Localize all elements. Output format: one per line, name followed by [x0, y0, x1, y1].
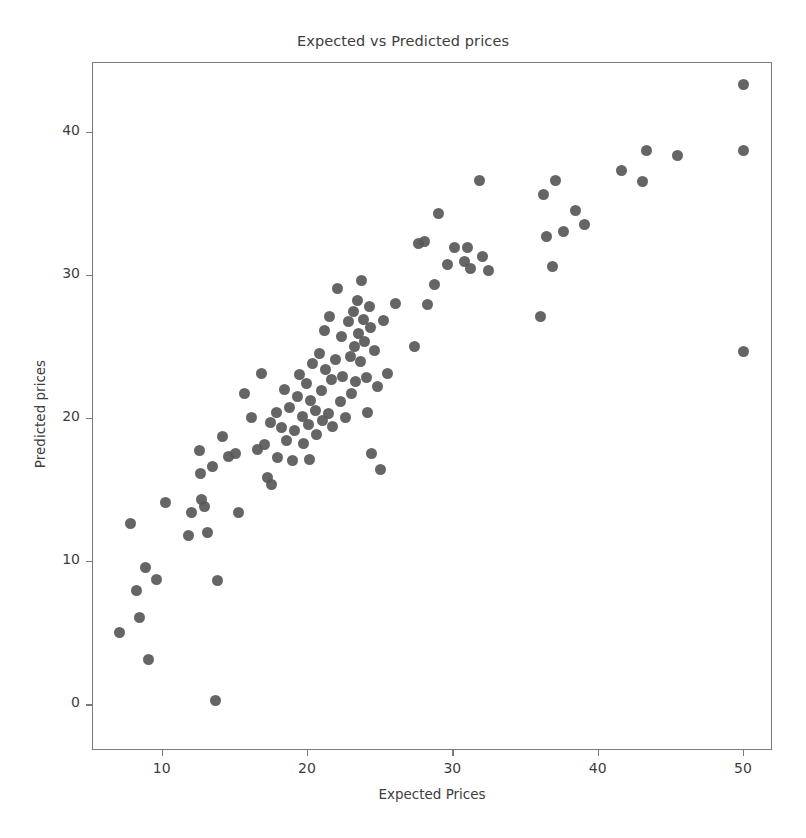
- scatter-point: [272, 452, 283, 463]
- scatter-point: [256, 368, 267, 379]
- scatter-point: [323, 408, 334, 419]
- scatter-point: [324, 311, 335, 322]
- scatter-point: [449, 242, 460, 253]
- scatter-point: [550, 175, 561, 186]
- scatter-point: [239, 388, 250, 399]
- scatter-point: [210, 695, 221, 706]
- scatter-point: [217, 431, 228, 442]
- scatter-point: [230, 448, 241, 459]
- scatter-point: [365, 322, 376, 333]
- scatter-point: [429, 279, 440, 290]
- scatter-point: [362, 407, 373, 418]
- scatter-point: [143, 654, 154, 665]
- scatter-point: [535, 311, 546, 322]
- scatter-point: [672, 150, 683, 161]
- scatter-point: [311, 429, 322, 440]
- scatter-point: [332, 283, 343, 294]
- scatter-point: [330, 354, 341, 365]
- scatter-point: [307, 358, 318, 369]
- scatter-point: [343, 316, 354, 327]
- x-tick-mark: [452, 750, 453, 756]
- scatter-point: [483, 265, 494, 276]
- scatter-point: [276, 422, 287, 433]
- x-tick-label: 20: [277, 760, 337, 776]
- scatter-point: [390, 298, 401, 309]
- x-tick-mark: [743, 750, 744, 756]
- scatter-point: [579, 219, 590, 230]
- x-tick-mark: [162, 750, 163, 756]
- scatter-point: [422, 299, 433, 310]
- scatter-point: [271, 407, 282, 418]
- scatter-point: [303, 419, 314, 430]
- x-tick-label: 10: [132, 760, 192, 776]
- x-tick-mark: [598, 750, 599, 756]
- scatter-point: [304, 454, 315, 465]
- scatter-point: [419, 236, 430, 247]
- scatter-point: [409, 341, 420, 352]
- y-tick-mark: [86, 704, 92, 705]
- scatter-point: [327, 421, 338, 432]
- x-tick-label: 40: [568, 760, 628, 776]
- scatter-point: [375, 464, 386, 475]
- scatter-point: [350, 376, 361, 387]
- scatter-point: [199, 501, 210, 512]
- scatter-point: [352, 295, 363, 306]
- y-tick-mark: [86, 418, 92, 419]
- scatter-point: [369, 345, 380, 356]
- x-tick-mark: [307, 750, 308, 756]
- scatter-point: [281, 435, 292, 446]
- scatter-point: [194, 445, 205, 456]
- scatter-point: [140, 562, 151, 573]
- scatter-point: [538, 189, 549, 200]
- scatter-point: [345, 351, 356, 362]
- scatter-point: [738, 79, 749, 90]
- x-tick-label: 50: [713, 760, 773, 776]
- scatter-point: [637, 176, 648, 187]
- x-tick-label: 30: [422, 760, 482, 776]
- scatter-point: [378, 315, 389, 326]
- scatter-point: [114, 627, 125, 638]
- scatter-point: [340, 412, 351, 423]
- y-tick-mark: [86, 132, 92, 133]
- scatter-point: [131, 585, 142, 596]
- scatter-point: [738, 346, 749, 357]
- scatter-point: [337, 371, 348, 382]
- scatter-point: [319, 325, 330, 336]
- scatter-point: [477, 251, 488, 262]
- plot-area: [92, 62, 772, 750]
- scatter-point: [465, 263, 476, 274]
- scatter-point: [212, 575, 223, 586]
- scatter-point: [287, 455, 298, 466]
- scatter-point: [382, 368, 393, 379]
- scatter-point: [366, 448, 377, 459]
- scatter-point: [292, 391, 303, 402]
- scatter-point: [151, 574, 162, 585]
- scatter-point: [738, 145, 749, 156]
- y-tick-mark: [86, 275, 92, 276]
- scatter-point: [310, 405, 321, 416]
- y-axis-label: Predicted prices: [32, 70, 48, 758]
- scatter-point: [547, 261, 558, 272]
- scatter-point: [356, 275, 367, 286]
- scatter-point: [259, 439, 270, 450]
- scatter-point: [355, 356, 366, 367]
- scatter-point: [359, 336, 370, 347]
- scatter-point: [125, 518, 136, 529]
- scatter-point: [183, 530, 194, 541]
- scatter-point: [346, 388, 357, 399]
- scatter-point: [433, 208, 444, 219]
- scatter-point: [570, 205, 581, 216]
- scatter-point: [320, 364, 331, 375]
- scatter-point: [326, 374, 337, 385]
- scatter-point: [134, 612, 145, 623]
- scatter-point: [301, 378, 312, 389]
- scatter-point: [462, 242, 473, 253]
- scatter-point: [474, 175, 485, 186]
- scatter-point: [289, 425, 300, 436]
- scatter-point: [246, 412, 257, 423]
- scatter-point: [160, 497, 171, 508]
- scatter-point: [186, 507, 197, 518]
- figure-canvas: Expected vs Predicted prices 1020304050 …: [0, 0, 806, 838]
- scatter-point: [364, 301, 375, 312]
- y-tick-mark: [86, 561, 92, 562]
